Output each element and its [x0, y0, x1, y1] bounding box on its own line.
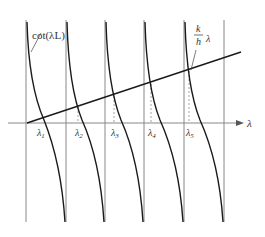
cot-branch-1 — [27, 22, 65, 222]
root-label-4: λ4 — [147, 127, 156, 140]
cot-label: cot(λL) — [32, 29, 65, 42]
line-label: k h λ — [194, 23, 211, 47]
root-label-2: λ2 — [74, 127, 83, 140]
line-label-variable: λ — [205, 33, 211, 44]
cot-intersection-diagram: cot(λL) k h λ λ λ1 λ2 λ3 λ4 λ5 — [0, 0, 265, 237]
linear-function-line — [27, 52, 241, 123]
line-label-numerator: k — [196, 23, 201, 34]
root-label-5: λ5 — [185, 127, 194, 140]
root-drop-lines — [78, 71, 189, 123]
axis-arrow-icon — [236, 120, 244, 126]
root-label-1: λ1 — [36, 127, 45, 140]
asymptotes — [26, 20, 224, 222]
cot-curves — [27, 22, 223, 222]
axis-label: λ — [246, 117, 252, 129]
cot-branch-2 — [67, 22, 104, 222]
line-label-denominator: h — [196, 36, 201, 47]
cot-branch-3 — [106, 22, 143, 222]
root-labels: λ1 λ2 λ3 λ4 λ5 — [36, 127, 194, 140]
cot-branch-5 — [185, 22, 223, 222]
root-label-3: λ3 — [110, 127, 119, 140]
